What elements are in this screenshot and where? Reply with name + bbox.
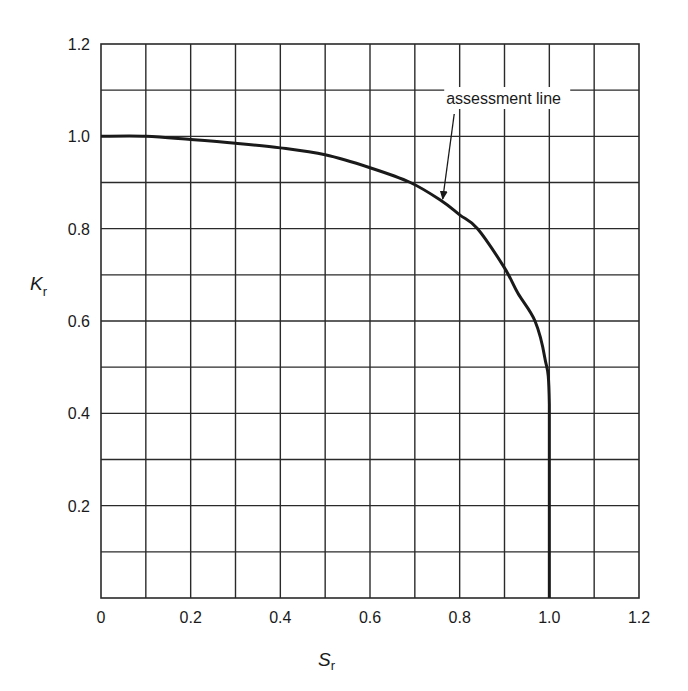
x-tick-label: 0 [97, 609, 106, 626]
x-tick-label: 0.6 [359, 609, 381, 626]
y-axis-label: Kr [30, 273, 48, 299]
x-tick-label: 0.8 [449, 609, 471, 626]
y-tick-label: 0.4 [68, 405, 90, 422]
grid-lines [101, 44, 639, 598]
x-tick-label: 1.2 [628, 609, 650, 626]
x-tick-label: 0.2 [180, 609, 202, 626]
x-tick-label: 0.4 [269, 609, 291, 626]
x-axis-ticks: 00.20.40.60.81.01.2 [97, 609, 651, 626]
y-tick-label: 0.8 [68, 221, 90, 238]
annotation-arrow [443, 114, 454, 199]
y-tick-label: 0.2 [68, 498, 90, 515]
chart-canvas: 00.20.40.60.81.01.2 0.20.40.60.81.01.2 a… [0, 0, 688, 691]
y-tick-label: 0.6 [68, 313, 90, 330]
y-axis-ticks: 0.20.40.60.81.01.2 [68, 36, 90, 515]
annotation-label: assessment line [446, 90, 561, 107]
x-axis-label: Sr [318, 649, 336, 673]
y-tick-label: 1.0 [68, 128, 90, 145]
y-tick-label: 1.2 [68, 36, 90, 53]
x-tick-label: 1.0 [538, 609, 560, 626]
